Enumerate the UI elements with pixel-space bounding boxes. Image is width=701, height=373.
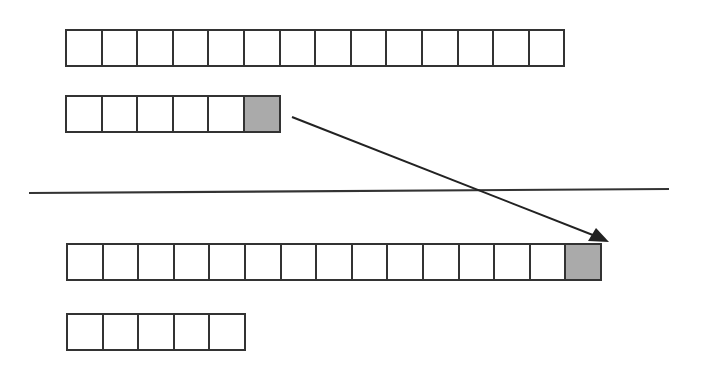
move-arrow [292, 117, 603, 239]
connector-layer [0, 0, 701, 373]
divider-line [29, 189, 669, 193]
